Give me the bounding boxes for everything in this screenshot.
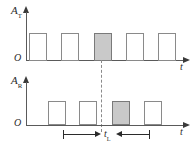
delay-label: tL [104,129,111,141]
top-x-axis-arrow-icon [183,57,190,63]
bottom-y-axis-label: AR [11,75,22,89]
pulse-timing-figure: AT t O AR t O tL [0,0,195,147]
top-x-axis-label: t [180,62,183,72]
top-pulse-1 [29,33,47,61]
bottom-pulse-2 [79,101,97,125]
top-y-axis-subscript: T [18,12,22,19]
top-y-axis-symbol: A [11,4,18,16]
delay-measure-line-left [63,134,95,135]
top-pulse-5 [158,33,176,61]
bottom-pulse-4 [144,101,162,125]
bottom-pulse-1 [48,101,66,125]
top-pulse-4 [126,33,144,61]
delay-label-subscript: L [107,135,111,142]
top-y-axis-label: AT [11,5,22,19]
bottom-x-axis-line [26,125,183,126]
bottom-x-axis-label: t [180,127,183,137]
bottom-y-axis-symbol: A [11,74,18,86]
delay-tick-left [63,130,64,139]
top-y-axis-line [26,12,27,60]
alignment-dashed-line [101,60,102,132]
bottom-y-axis-line [26,82,27,125]
delay-arrow-right-icon [95,131,101,137]
bottom-y-axis-subscript: R [18,82,23,89]
bottom-origin-label: O [14,118,21,128]
top-pulse-2 [61,33,79,61]
delay-measure-line-right [122,134,150,135]
bottom-x-axis-arrow-icon [183,122,190,128]
top-pulse-3-shaded [94,33,112,61]
top-origin-label: O [14,53,21,63]
delay-tick-right [149,130,150,139]
bottom-pulse-3-shaded [112,101,130,125]
